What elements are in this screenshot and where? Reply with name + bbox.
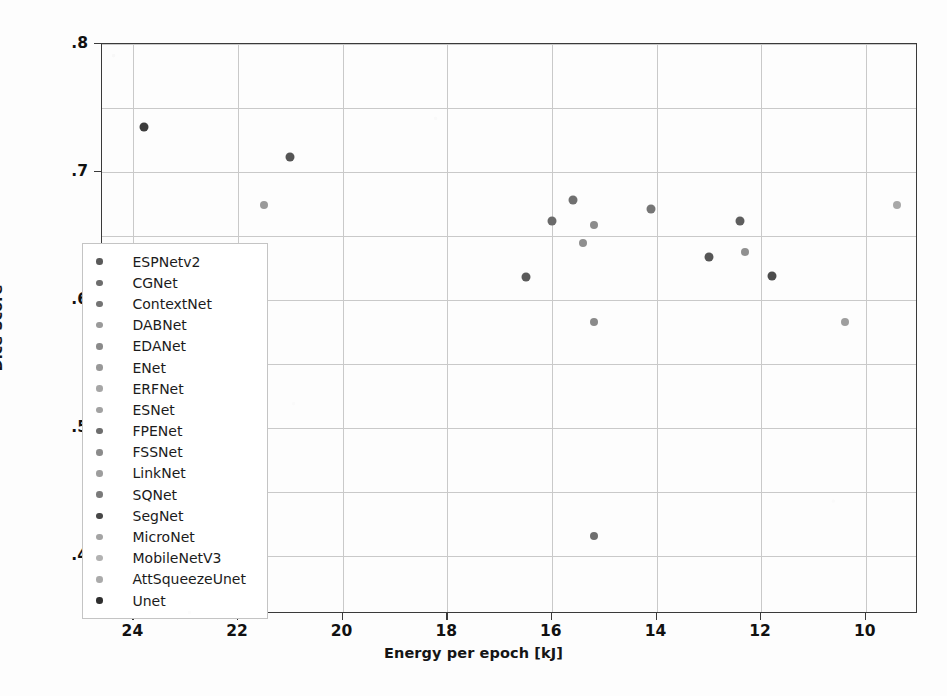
legend-item-attsqueezeunet[interactable]: AttSqueezeUnet [83, 569, 267, 590]
legend-marker-icon [96, 428, 103, 435]
legend-marker-icon [96, 534, 103, 541]
gridline-vertical [447, 44, 448, 612]
data-point[interactable] [704, 252, 713, 261]
legend-marker-icon [96, 280, 103, 287]
legend-marker-icon [96, 597, 103, 604]
legend-item-mobilenetv3[interactable]: MobileNetV3 [83, 548, 267, 569]
gridline-vertical [552, 44, 553, 612]
legend-marker-icon [96, 385, 103, 392]
legend-item-label: LinkNet [133, 465, 186, 481]
legend-marker-icon [96, 301, 103, 308]
x-tick-label: 22 [226, 622, 248, 640]
legend-marker-icon [96, 258, 103, 265]
data-point[interactable] [260, 201, 268, 209]
data-point[interactable] [767, 271, 776, 280]
x-tick-label: 12 [749, 622, 771, 640]
gridline-vertical [866, 44, 867, 612]
legend-item-enet[interactable]: ENet [83, 357, 267, 378]
data-point[interactable] [568, 196, 577, 205]
x-tick-label: 14 [645, 622, 667, 640]
data-point[interactable] [590, 318, 598, 326]
x-tick-mark [760, 613, 761, 620]
legend-item-unet[interactable]: Unet [83, 590, 267, 611]
x-tick-label: 10 [854, 622, 876, 640]
legend-item-fssnet[interactable]: FSSNet [83, 442, 267, 463]
legend-item-linknet[interactable]: LinkNet [83, 463, 267, 484]
legend-item-label: MobileNetV3 [133, 550, 222, 566]
x-tick-mark [446, 613, 447, 620]
legend-marker-icon [96, 343, 103, 350]
gridline-horizontal [102, 108, 916, 109]
x-tick-label: 24 [122, 622, 144, 640]
legend-item-dabnet[interactable]: DABNet [83, 315, 267, 336]
legend-item-label: AttSqueezeUnet [133, 571, 246, 587]
legend-item-espnetv2[interactable]: ESPNetv2 [83, 251, 267, 272]
data-point[interactable] [579, 239, 587, 247]
legend-item-cgnet[interactable]: CGNet [83, 272, 267, 293]
x-tick-label: 20 [331, 622, 353, 640]
gridline-vertical [657, 44, 658, 612]
legend-item-segnet[interactable]: SegNet [83, 505, 267, 526]
legend-item-label: FSSNet [133, 444, 183, 460]
legend-item-label: ENet [133, 360, 166, 376]
data-point[interactable] [893, 201, 901, 209]
y-tick-mark [94, 43, 101, 44]
data-point[interactable] [547, 216, 556, 225]
y-tick-mark [94, 171, 101, 172]
x-tick-mark [551, 613, 552, 620]
gridline-vertical [761, 44, 762, 612]
legend-item-label: DABNet [133, 317, 187, 333]
gridline-horizontal [102, 44, 916, 45]
legend-item-label: CGNet [133, 275, 178, 291]
legend-item-edanet[interactable]: EDANet [83, 336, 267, 357]
data-point[interactable] [286, 152, 295, 161]
x-tick-mark [656, 613, 657, 620]
legend-marker-icon [96, 470, 103, 477]
legend-item-micronet[interactable]: MicroNet [83, 526, 267, 547]
legend-marker-icon [96, 491, 103, 498]
legend-item-label: MicroNet [133, 529, 195, 545]
legend-marker-icon [96, 555, 103, 562]
data-point[interactable] [139, 123, 148, 132]
gridline-horizontal [102, 172, 916, 173]
legend-item-label: ESNet [133, 402, 175, 418]
legend-item-esnet[interactable]: ESNet [83, 399, 267, 420]
data-point[interactable] [590, 532, 598, 540]
legend-marker-icon [96, 513, 103, 520]
y-axis-label: Dice Score [0, 285, 5, 371]
y-tick-label: .7 [48, 162, 88, 180]
legend-marker-icon [96, 576, 103, 583]
legend-marker-icon [96, 407, 103, 414]
legend-item-label: FPENet [133, 423, 183, 439]
x-axis-label: Energy per epoch [kJ] [0, 645, 947, 661]
legend-item-label: EDANet [133, 338, 187, 354]
legend-item-fpenet[interactable]: FPENet [83, 421, 267, 442]
y-tick-label: .8 [48, 34, 88, 52]
legend-marker-icon [96, 322, 103, 329]
legend-item-label: SQNet [133, 487, 177, 503]
x-tick-label: 18 [435, 622, 457, 640]
data-point[interactable] [841, 318, 849, 326]
legend-marker-icon [96, 364, 103, 371]
legend-item-label: SegNet [133, 508, 184, 524]
data-point[interactable] [521, 273, 530, 282]
data-point[interactable] [741, 248, 749, 256]
x-tick-label: 16 [540, 622, 562, 640]
legend-item-sqnet[interactable]: SQNet [83, 484, 267, 505]
legend-item-label: ESPNetv2 [133, 254, 201, 270]
scatter-plot-figure: 2422201816141210 .4.5.6.7.8 Energy per e… [0, 0, 947, 696]
legend-item-contextnet[interactable]: ContextNet [83, 293, 267, 314]
legend[interactable]: ESPNetv2CGNetContextNetDABNetEDANetENetE… [82, 243, 268, 619]
data-point[interactable] [590, 221, 598, 229]
x-tick-mark [865, 613, 866, 620]
x-tick-mark [342, 613, 343, 620]
data-point[interactable] [647, 205, 656, 214]
legend-marker-icon [96, 449, 103, 456]
legend-item-label: ContextNet [133, 296, 212, 312]
legend-item-label: ERFNet [133, 381, 184, 397]
data-point[interactable] [736, 216, 745, 225]
gridline-horizontal [102, 236, 916, 237]
gridline-vertical [343, 44, 344, 612]
legend-item-erfnet[interactable]: ERFNet [83, 378, 267, 399]
legend-item-label: Unet [133, 593, 166, 609]
